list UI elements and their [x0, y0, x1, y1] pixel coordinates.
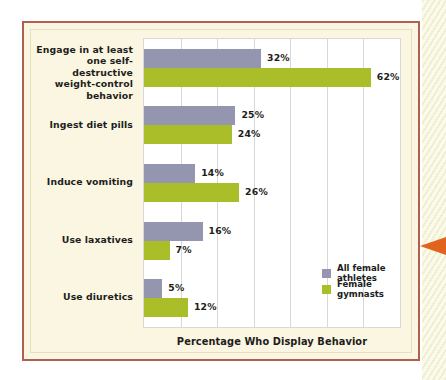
chart-panel: Engage in at leastone self-destructivewe… [22, 21, 420, 361]
bar-row: 14% [144, 164, 400, 183]
bar-value-label: 16% [209, 225, 232, 236]
page-edge-divider [420, 0, 422, 380]
bar-value-label: 12% [194, 301, 217, 312]
bar-row: 25% [144, 106, 400, 125]
bar-row: 12% [144, 298, 400, 317]
bar[interactable] [144, 279, 162, 298]
bar-value-label: 32% [267, 52, 290, 63]
bar-row: 26% [144, 183, 400, 202]
bar[interactable] [144, 241, 170, 260]
plot-area: 32%62%25%24%14%26%16%7%5%12% All female … [143, 38, 401, 328]
left-pointing-arrow-icon [420, 237, 446, 255]
bar[interactable] [144, 125, 232, 144]
bar-row: 32% [144, 49, 400, 68]
bar[interactable] [144, 49, 261, 68]
category-label: Induce vomiting [47, 176, 133, 188]
bar[interactable] [144, 298, 188, 317]
bar-group: 32%62% [144, 49, 400, 87]
x-axis-title: Percentage Who Display Behavior [143, 336, 401, 347]
bar-group: 16%7% [144, 222, 400, 260]
bar-value-label: 7% [176, 244, 192, 255]
bar[interactable] [144, 164, 195, 183]
category-label: Engage in at leastone self-destructivewe… [31, 44, 133, 102]
bar[interactable] [144, 106, 235, 125]
page-edge-texture [422, 0, 446, 380]
bar-value-label: 5% [168, 282, 184, 293]
bar-value-label: 24% [238, 128, 261, 139]
bar-row: 7% [144, 241, 400, 260]
bar[interactable] [144, 222, 203, 241]
category-axis-labels: Engage in at leastone self-destructivewe… [31, 38, 139, 328]
bar-row: 24% [144, 125, 400, 144]
bar-value-label: 62% [377, 71, 400, 82]
chart-panel-inner: Engage in at leastone self-destructivewe… [30, 29, 412, 353]
bar-chart: Engage in at leastone self-destructivewe… [31, 30, 411, 352]
bar-group: 25%24% [144, 106, 400, 144]
legend: All female athletes Female gymnasts [322, 266, 400, 298]
bar-row: 62% [144, 68, 400, 87]
legend-swatch-female-gymnasts [322, 285, 331, 294]
legend-item: All female athletes [322, 266, 400, 280]
legend-label-female-gymnasts: Female gymnasts [337, 279, 400, 299]
legend-item: Female gymnasts [322, 282, 400, 296]
bar-value-label: 14% [201, 167, 224, 178]
category-label: Use diuretics [63, 291, 133, 303]
bar-value-label: 25% [241, 109, 264, 120]
bar[interactable] [144, 68, 371, 87]
bar[interactable] [144, 183, 239, 202]
legend-swatch-all-female-athletes [322, 269, 331, 278]
bar-group: 14%26% [144, 164, 400, 202]
category-label: Use laxatives [62, 234, 133, 246]
category-label: Ingest diet pills [49, 119, 133, 131]
bar-row: 16% [144, 222, 400, 241]
bar-value-label: 26% [245, 186, 268, 197]
